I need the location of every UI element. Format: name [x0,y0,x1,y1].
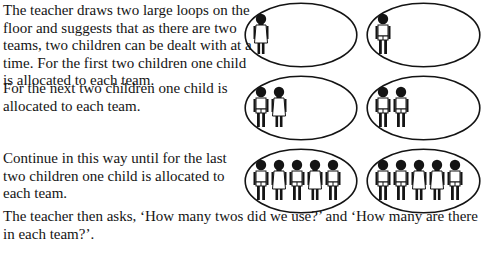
team-b-loop-step-3 [366,148,481,214]
loop-ellipse-icon [244,148,358,214]
boy-figure-icon [394,160,409,200]
paragraph-loops-intro: The teacher draws two large loops on the… [3,2,253,90]
team-b-loop-step-2 [366,75,481,141]
loop-ellipse-icon [366,2,481,68]
girl-figure-icon [308,160,323,200]
boy-figure-icon [326,160,341,200]
boy-figure-icon [376,160,391,200]
loop-ellipse-icon [366,75,481,141]
girl-figure-icon [430,160,445,200]
girl-figure-icon [412,160,427,200]
boy-figure-icon [290,160,305,200]
paragraph-continue: Continue in this way until for the last … [3,150,243,203]
team-a-loop-step-3 [244,148,358,214]
boy-figure-icon [448,160,463,200]
boy-figure-icon [376,14,391,54]
loop-ellipse-icon [244,75,358,141]
girl-figure-icon [254,14,269,54]
boy-figure-icon [254,87,269,127]
boy-figure-icon [376,87,391,127]
paragraph-next-two: For the next two children one child is a… [3,80,243,115]
team-a-loop-step-1 [244,2,358,68]
girl-figure-icon [272,87,287,127]
loop-ellipse-icon [366,148,481,214]
boy-figure-icon [394,87,409,127]
girl-figure-icon [272,160,287,200]
loop-ellipse-icon [244,2,358,68]
boy-figure-icon [254,160,269,200]
team-b-loop-step-1 [366,2,481,68]
team-a-loop-step-2 [244,75,358,141]
